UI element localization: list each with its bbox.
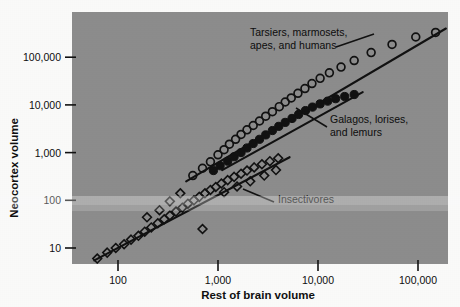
y-axis-tick-labels: 101001,00010,000100,000: [23, 51, 61, 254]
annotation-text: Tarsiers, marmosets,: [250, 26, 347, 38]
data-point: [341, 92, 349, 100]
x-tick-label: 1,000: [205, 274, 231, 286]
brain-volume-scatter-plot: 101001,00010,000100,000 1001,00010,00010…: [0, 0, 460, 307]
data-point: [316, 100, 324, 108]
x-tick-label: 100: [109, 274, 127, 286]
x-axis-title: Rest of brain volume: [201, 289, 315, 301]
figure-container: 101001,00010,000100,000 1001,00010,00010…: [0, 0, 460, 307]
x-tick-label: 100,000: [399, 274, 437, 286]
data-point: [216, 162, 224, 170]
y-tick-label: 1,000: [35, 147, 61, 159]
y-tick-label: 10: [49, 242, 61, 254]
data-point: [350, 90, 358, 98]
y-tick-label: 10,000: [29, 99, 61, 111]
data-point: [332, 95, 340, 103]
annotation-text: Insectivores: [278, 193, 334, 205]
data-point: [324, 97, 332, 105]
annotation-text: Galagos, lorises,: [330, 113, 408, 125]
x-axis-tick-labels: 1001,00010,000100,000: [109, 274, 437, 286]
annotation-text: apes, and humans: [250, 39, 336, 51]
y-tick-label: 100,000: [23, 51, 61, 63]
annotation-text: and lemurs: [330, 126, 382, 138]
x-tick-label: 10,000: [302, 274, 334, 286]
y-tick-label: 100: [43, 194, 61, 206]
y-axis-title: Neocortex volume: [8, 118, 20, 218]
data-point: [308, 103, 316, 111]
